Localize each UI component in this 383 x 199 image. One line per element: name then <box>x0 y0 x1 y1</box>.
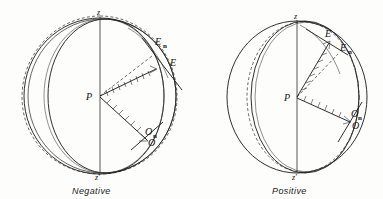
axis-label-z-top-negative: z <box>96 8 101 17</box>
indicatrix-diagram: E n E O n O P z z' Negative <box>0 0 383 199</box>
axis-label-z-bottom-positive: z' <box>291 173 297 182</box>
ray-to-E-negative <box>100 66 157 96</box>
ray-to-O-negative <box>100 97 148 141</box>
label-En-text-positive: E <box>339 42 346 53</box>
label-En-text: E <box>154 36 161 47</box>
label-O-negative: O <box>148 137 155 148</box>
caption-positive: Positive <box>272 186 307 196</box>
caption-negative: Negative <box>72 186 111 196</box>
label-En-sub-positive: n <box>348 48 352 56</box>
label-E-text-positive: E <box>324 28 331 39</box>
axis-label-z-bottom-negative: z' <box>94 173 100 182</box>
label-E-negative: E <box>169 57 176 68</box>
label-E-positive: E <box>324 28 331 39</box>
label-P-negative: P <box>85 91 92 102</box>
label-En-sub: n <box>163 42 167 50</box>
ray-to-En-positive <box>297 54 338 97</box>
axis-label-z-top-positive: z <box>293 12 298 21</box>
label-O-text-positive: O <box>352 120 359 131</box>
ray-to-O-positive <box>297 96 351 124</box>
inner-ellipse-negative-fine <box>44 19 164 173</box>
label-En-negative: E n <box>154 36 167 50</box>
panel-positive: E E n O n O P z z' Positive <box>227 12 367 196</box>
ray-to-En-negative <box>100 56 152 96</box>
label-E-text: E <box>169 57 176 68</box>
label-On-text: O <box>145 126 152 137</box>
ray-to-E-positive <box>297 41 330 97</box>
outer-circle-negative-shadow <box>28 19 176 173</box>
figure-root: E n E O n O P z z' Negative <box>0 0 383 199</box>
label-O-text: O <box>148 137 155 148</box>
label-O-positive: O <box>352 120 359 131</box>
label-P-positive: P <box>283 92 290 103</box>
panel-negative: E n E O n O P z z' Negative <box>22 8 182 196</box>
